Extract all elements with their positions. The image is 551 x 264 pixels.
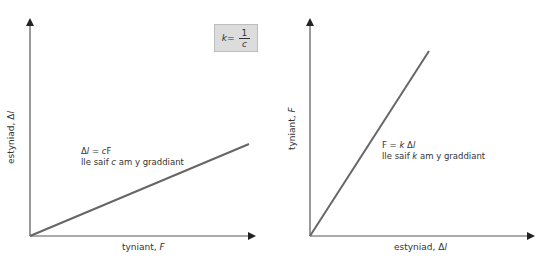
left-eq-rhs: F [106,146,111,156]
left-graph [30,20,254,236]
right-eq-rhs-var: l [413,140,415,150]
formula-denominator: c [242,39,247,49]
left-y-axis-label: estyniad, Δl [6,111,16,164]
right-note-suffix: am y graddiant [417,151,485,161]
right-x-axis-label-text: estyniad, Δ [394,242,444,252]
formula-fraction: 1 c [239,28,251,49]
left-x-axis-var: F [160,242,165,252]
right-y-axis-var: F [287,107,297,112]
right-eq-lhs: F = [382,140,399,150]
right-annotation: F = k Δl lle saif k am y graddiant [382,140,485,162]
formula-equals: = [227,33,235,43]
left-y-axis-var: l [6,111,16,114]
left-annotation: Δl = cF lle saif c am y graddiant [81,146,184,168]
right-x-axis-var: l [444,242,447,252]
left-x-axis-label: tyniant, F [122,242,165,252]
right-note: lle saif k am y graddiant [382,151,485,162]
left-equation: Δl = cF [81,146,184,157]
left-eq-mid: = [89,146,102,156]
diagram-canvas [0,0,551,264]
formula-box: k = 1 c [214,24,258,52]
left-y-axis-label-text: estyniad, Δ [6,114,16,164]
right-equation: F = k Δl [382,140,485,151]
formula-numerator: 1 [239,28,251,39]
right-graph [310,20,533,236]
left-note: lle saif c am y graddiant [81,157,184,168]
left-note-suffix: am y graddiant [116,157,184,167]
right-note-prefix: lle saif [382,151,412,161]
left-x-axis-label-text: tyniant, [122,242,160,252]
right-y-axis-label-text: tyniant, [287,112,297,150]
left-note-prefix: lle saif [81,157,111,167]
right-x-axis-label: estyniad, Δl [394,242,447,252]
right-eq-rhs: Δ [404,140,413,150]
right-y-axis-label: tyniant, F [287,107,297,150]
